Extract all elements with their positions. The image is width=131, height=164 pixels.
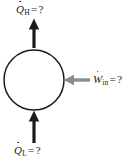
heat-absorbed-value: ?	[36, 144, 41, 156]
heat-rejected-symbol: Q	[16, 4, 24, 15]
work-input-arrow-left	[64, 75, 91, 85]
heat-rejected-arrow-up	[29, 19, 39, 49]
work-input-equals: =	[110, 73, 116, 85]
heat-absorbed-arrow-up	[29, 111, 39, 144]
heat-absorbed-arrow-head	[29, 111, 39, 122]
heat-rejected-value: ?	[39, 3, 44, 15]
work-input-symbol: W	[93, 74, 102, 85]
work-input-value: ?	[117, 73, 122, 85]
heat-absorbed-label: QL=?	[14, 145, 41, 156]
rate-dot-icon	[19, 1, 21, 3]
heat-rejected-arrow-head	[29, 19, 39, 30]
energy-balance-diagram: QH=? QL=? Win=?	[0, 0, 131, 164]
heat-rejected-equals: =	[31, 3, 37, 15]
heat-absorbed-equals: =	[28, 144, 34, 156]
system-boundary-circle	[4, 50, 64, 110]
work-input-subscript: in	[102, 78, 108, 87]
work-input-arrow-head	[64, 75, 75, 85]
heat-absorbed-symbol: Q	[14, 145, 22, 156]
work-input-label: Win=?	[93, 74, 122, 85]
heat-absorbed-subscript: L	[22, 149, 27, 158]
heat-rejected-subscript: H	[24, 8, 29, 17]
heat-rejected-label: QH=?	[16, 4, 43, 15]
rate-dot-icon	[17, 142, 19, 144]
rate-dot-icon	[97, 71, 99, 73]
